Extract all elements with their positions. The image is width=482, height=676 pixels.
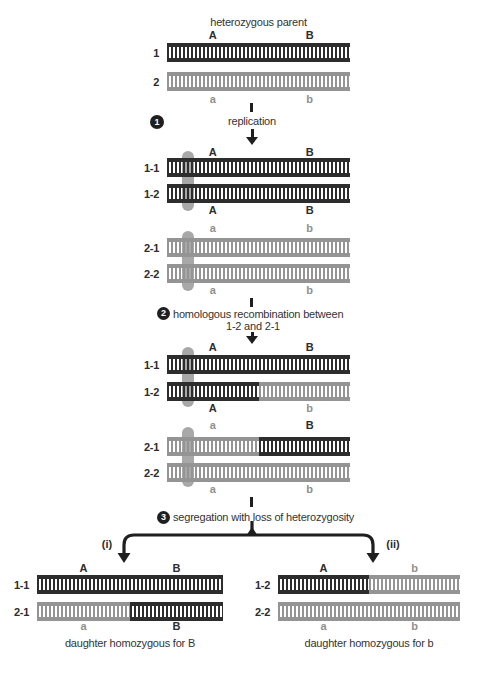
chromosome-row-label: 1-2 — [124, 188, 159, 200]
dark-chromatid-segment — [167, 43, 350, 62]
light-chromatid-segment — [278, 602, 460, 621]
step-2-badge: 2 — [157, 307, 170, 320]
chromatid-1-2-ladder-recombinant — [167, 382, 350, 401]
chromosome-row-label: 2-1 — [124, 441, 159, 453]
flow-line — [250, 497, 253, 507]
parent-chromosome-group: A B 1 2 a b — [167, 30, 350, 110]
chromatid-2-2-ladder — [278, 602, 460, 621]
dark-chromatid-segment — [259, 437, 351, 456]
loh-diagram: heterozygous parent A B 1 2 a b 1 replic… — [0, 0, 482, 676]
chromatid-1-1-ladder — [167, 158, 350, 177]
locus-label-b: b — [306, 223, 313, 234]
light-chromatid-segment — [167, 437, 259, 456]
chromatid-1-2-ladder-recombinant — [278, 575, 460, 594]
light-chromatid-segment — [259, 382, 351, 401]
locus-label-B: B — [173, 621, 181, 632]
chromosome-row-label: 2-2 — [124, 467, 159, 479]
locus-label-a: a — [210, 484, 216, 495]
locus-label-B: B — [306, 205, 314, 216]
left-arrowhead-icon — [118, 553, 131, 563]
light-chromatid-segment — [167, 264, 350, 283]
step-1-badge: 1 — [150, 115, 164, 129]
step-2-label-line1: homologous recombination between — [173, 308, 333, 320]
replicated-dark-pair-group: A B 1-1 1-2 A B — [167, 147, 350, 219]
chromosome-1-ladder — [167, 43, 350, 62]
chromatid-2-1-ladder — [167, 238, 350, 257]
recombinant-dark-pair-group: A B 1-1 1-2 A b — [167, 342, 350, 417]
dark-chromatid-segment — [37, 575, 223, 594]
locus-label-a: a — [210, 223, 216, 234]
chromosome-2-ladder — [167, 72, 350, 91]
branch-line — [124, 535, 373, 554]
chromatid-2-1-ladder-recombinant — [167, 437, 350, 456]
chromatid-1-1-ladder — [167, 355, 350, 374]
locus-label-b: b — [306, 484, 313, 495]
light-chromatid-segment — [167, 463, 350, 482]
step-2-label-line2: 1-2 and 2-1 — [173, 320, 333, 332]
locus-label-a: a — [210, 94, 216, 105]
segregation-branch-arrows — [100, 518, 400, 566]
dark-chromatid-segment — [167, 382, 259, 401]
locus-label-b: b — [306, 285, 313, 296]
dark-chromatid-segment — [167, 184, 350, 203]
locus-label-b: b — [306, 94, 313, 105]
daughter-left-caption: daughter homozygous for B — [37, 637, 223, 649]
flow-line — [250, 298, 253, 307]
locus-label-a: a — [210, 285, 216, 296]
down-arrow-icon — [246, 129, 259, 145]
locus-label-A: A — [209, 342, 217, 353]
step-3-badge: 3 — [157, 511, 170, 524]
chromatid-2-2-ladder — [167, 264, 350, 283]
dark-chromatid-segment — [278, 575, 369, 594]
dark-chromatid-segment — [167, 355, 350, 374]
flow-line — [250, 103, 253, 112]
locus-label-a: a — [80, 621, 86, 632]
chromosome-row-label: 1-2 — [235, 579, 270, 591]
chromosome-row-label: 2 — [124, 76, 159, 88]
chromatid-1-2-ladder — [167, 184, 350, 203]
locus-label-b: b — [411, 563, 418, 574]
light-chromatid-segment — [369, 575, 460, 594]
locus-label-A: A — [209, 147, 217, 158]
light-chromatid-segment — [167, 238, 350, 257]
locus-label-A: A — [209, 30, 217, 41]
chromosome-row-label: 2-1 — [124, 242, 159, 254]
daughter-right-caption: daughter homozygous for b — [278, 637, 460, 649]
locus-label-b: b — [411, 621, 418, 632]
locus-label-B: B — [306, 147, 314, 158]
right-arrowhead-icon — [367, 553, 380, 563]
locus-label-B: B — [306, 420, 314, 431]
chromosome-row-label: 2-2 — [124, 268, 159, 280]
locus-label-a: a — [320, 621, 326, 632]
light-chromatid-segment — [167, 72, 350, 91]
dark-chromatid-segment — [167, 158, 350, 177]
locus-label-b: b — [306, 403, 313, 414]
replicated-light-pair-group: a b 2-1 2-2 a b — [167, 223, 350, 299]
light-chromatid-segment — [37, 602, 130, 621]
chromosome-row-label: 1-1 — [0, 579, 29, 591]
daughter-homozygous-B-group: A B 1-1 2-1 a B daughter homozygous for … — [37, 563, 223, 653]
recombinant-light-pair-group: a B 2-1 2-2 a b — [167, 420, 350, 498]
step-1-label: replication — [182, 115, 322, 127]
chromosome-row-label: 2-1 — [0, 606, 29, 618]
daughter-homozygous-b-group: A b 1-2 2-2 a b daughter homozygous for … — [278, 563, 460, 653]
locus-label-B: B — [306, 342, 314, 353]
locus-label-a: a — [210, 420, 216, 431]
chromosome-row-label: 1-1 — [124, 162, 159, 174]
locus-label-A: A — [209, 403, 217, 414]
chromatid-2-1-ladder-recombinant — [37, 602, 223, 621]
figure-title: heterozygous parent — [167, 16, 350, 28]
locus-label-B: B — [306, 30, 314, 41]
chromatid-1-1-ladder — [37, 575, 223, 594]
locus-label-A: A — [209, 205, 217, 216]
chromatid-2-2-ladder — [167, 463, 350, 482]
locus-label-A: A — [80, 563, 88, 574]
chromosome-row-label: 1-1 — [124, 359, 159, 371]
dark-chromatid-segment — [130, 602, 223, 621]
chromosome-row-label: 2-2 — [235, 606, 270, 618]
chromosome-row-label: 1 — [124, 47, 159, 59]
chromosome-row-label: 1-2 — [124, 386, 159, 398]
